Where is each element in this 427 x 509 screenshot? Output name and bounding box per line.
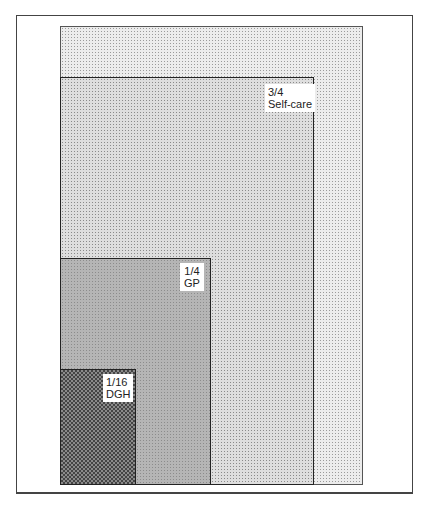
self-care-name: Self-care	[268, 98, 312, 110]
dgh-label: 1/16 DGH	[103, 374, 133, 402]
gp-label: 1/4 GP	[180, 263, 204, 291]
self-care-fraction: 3/4	[268, 86, 312, 98]
gp-fraction: 1/4	[184, 265, 200, 277]
gp-name: GP	[184, 277, 200, 289]
self-care-label: 3/4 Self-care	[265, 84, 315, 112]
dgh-fraction: 1/16	[106, 376, 130, 388]
dgh-name: DGH	[106, 388, 130, 400]
